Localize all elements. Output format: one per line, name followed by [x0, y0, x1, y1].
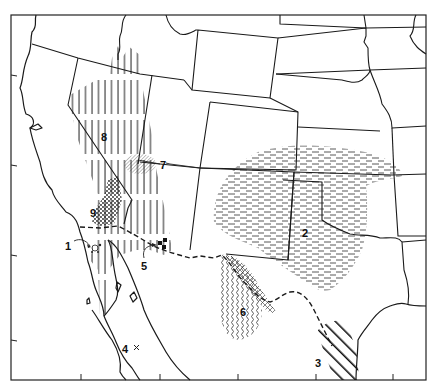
range-label-4: 4: [122, 343, 129, 355]
island: [116, 282, 121, 292]
gulf-coastline: [356, 303, 426, 380]
range-label-8: 8: [101, 131, 107, 143]
island: [87, 298, 90, 304]
range-3-bold-hatch: [318, 321, 358, 380]
range-label-2: 2: [302, 227, 308, 239]
range-7-fine-hatch: [124, 154, 156, 174]
range-label-3: 3: [315, 357, 321, 369]
range-label-9: 9: [90, 207, 96, 219]
range-label-5: 5: [141, 260, 147, 272]
baja-lower-coast: [92, 310, 126, 380]
range-label-6: 6: [240, 306, 246, 318]
island: [130, 292, 137, 302]
island: [30, 124, 42, 130]
range-4-marker: [134, 345, 139, 350]
range-label-7: 7: [160, 159, 166, 171]
range-map: 8 7 9 1 5 2 6 4 3: [0, 0, 436, 389]
range-label-1: 1: [65, 240, 71, 252]
range-6-wavy: [220, 254, 277, 340]
